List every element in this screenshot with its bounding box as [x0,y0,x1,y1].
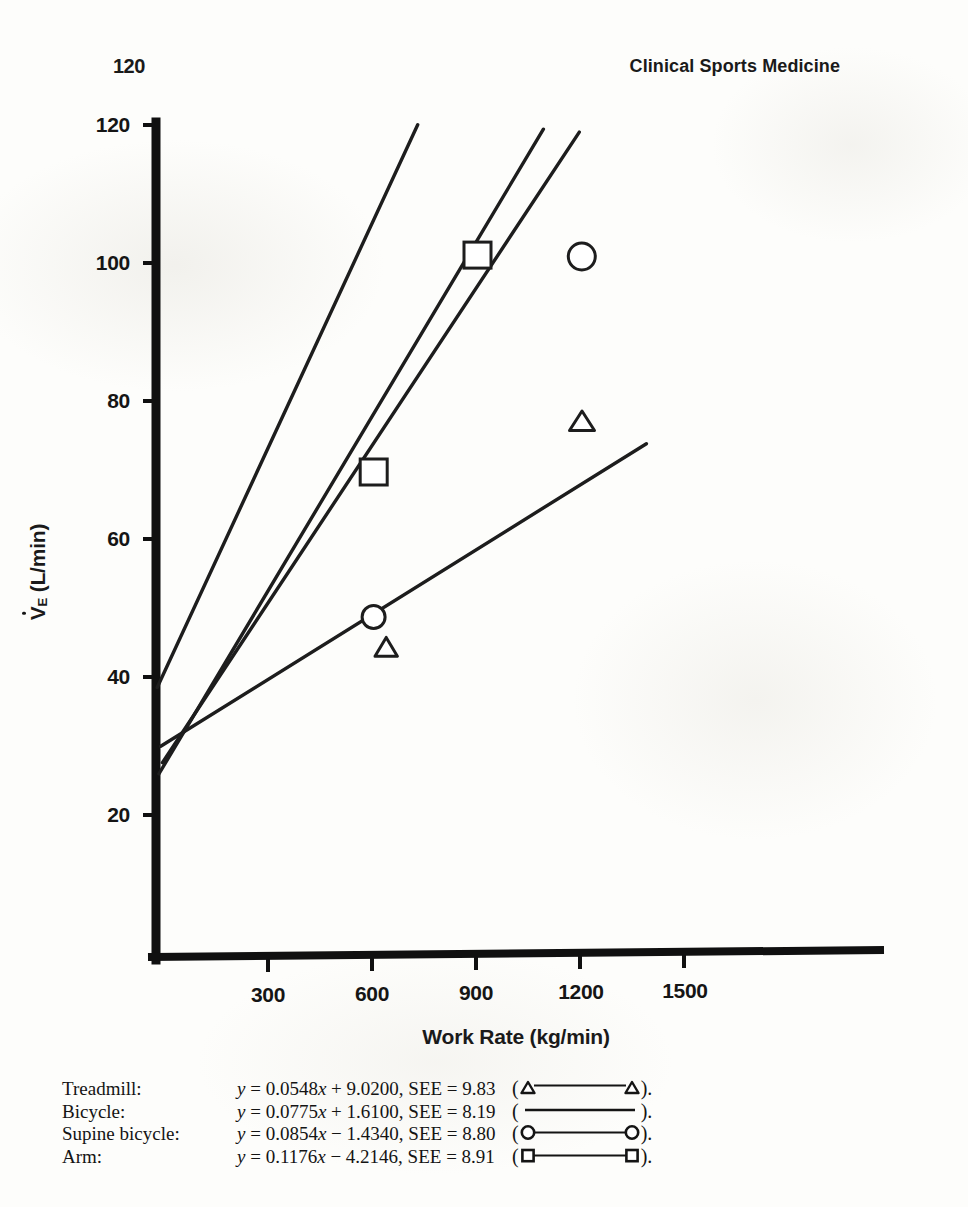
y-tick-label-80: 80 [60,389,130,413]
marker-supine-1200 [568,243,595,270]
legend-open-paren: ( [512,1101,519,1121]
y-tick-label-60: 60 [60,527,130,551]
y-tick-label-20: 20 [60,803,130,827]
legend-row: Supine bicycle: y = 0.0854x − 1.4340, SE… [62,1123,652,1146]
y-tick-label-40: 40 [60,665,130,689]
legend-key-arm: ( ). [512,1146,652,1166]
legend-key-bicycle: ( ). [512,1101,652,1121]
figure-container: 120 100 80 60 40 20 300 600 900 1200 150… [0,0,968,1207]
series-line-treadmill [161,444,647,747]
y-axis-subscript: E [35,598,50,606]
legend-row: Bicycle: y = 0.0775x + 1.6100, SEE = 8.1… [62,1101,652,1124]
legend-key-supine-bicycle: ( ). [512,1123,652,1143]
x-tick-label-1200: 1200 [558,980,604,1004]
legend-close-paren: ). [641,1101,653,1121]
legend-equation-bicycle: y = 0.0775x + 1.6100, SEE = 8.19 [237,1101,512,1123]
legend-close-paren: ). [641,1146,653,1166]
x-axis-title: Work Rate (kg/min) [0,1025,968,1049]
x-tick-label-600: 600 [355,982,389,1006]
legend-row: Arm: y = 0.1176x − 4.2146, SEE = 8.91 ( … [62,1146,652,1169]
y-tick-label-120: 120 [60,113,130,137]
series-markers [360,242,595,656]
marker-arm-600 [360,459,387,485]
x-tick-label-300: 300 [251,983,285,1007]
axis-lines [152,122,880,960]
x-tick-label-1500: 1500 [662,979,708,1003]
y-axis-title: VE (L/min) [26,472,50,672]
marker-supine-600 [362,606,385,629]
legend-close-paren: ). [641,1078,653,1098]
series-lines [157,125,646,774]
legend-open-paren: ( [512,1146,519,1166]
y-axis-v-symbol: V [26,606,50,620]
legend-key-treadmill: ( ). [512,1078,652,1098]
marker-treadmill-620 [375,637,397,656]
marker-arm-900 [464,242,491,268]
legend-label-treadmill: Treadmill: [62,1078,237,1100]
legend-sample-plain-line [519,1101,641,1121]
legend-equation-treadmill: y = 0.0548x + 9.0200, SEE = 9.83 [237,1078,512,1100]
legend-sample-square [519,1146,641,1166]
y-axis-unit: (L/min) [26,524,49,598]
figure-legend: Treadmill: y = 0.0548x + 9.0200, SEE = 9… [62,1078,652,1168]
series-line-supine [159,129,544,774]
legend-label-arm: Arm: [62,1146,237,1168]
legend-row: Treadmill: y = 0.0548x + 9.0200, SEE = 9… [62,1078,652,1101]
y-tick-label-100: 100 [60,251,130,275]
legend-equation-supine-bicycle: y = 0.0854x − 1.4340, SEE = 8.80 [237,1123,512,1145]
legend-close-paren: ). [641,1123,653,1143]
legend-equation-arm: y = 0.1176x − 4.2146, SEE = 8.91 [237,1146,512,1168]
x-axis-title-text: Work Rate (kg/min) [422,1025,609,1048]
legend-open-paren: ( [512,1078,519,1098]
x-tick-label-900: 900 [459,981,493,1005]
marker-treadmill-1200 [570,411,595,431]
legend-open-paren: ( [512,1123,519,1143]
legend-label-bicycle: Bicycle: [62,1101,237,1123]
legend-sample-circle [519,1123,641,1143]
legend-sample-triangle [519,1078,641,1098]
legend-label-supine-bicycle: Supine bicycle: [62,1123,237,1145]
